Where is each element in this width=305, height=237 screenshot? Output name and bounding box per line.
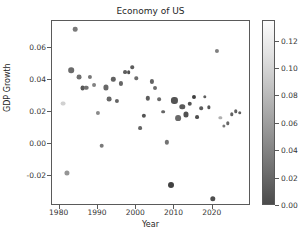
scatter-point xyxy=(161,110,165,114)
scatter-point xyxy=(138,126,142,130)
scatter-point xyxy=(68,67,74,73)
scatter-point xyxy=(142,114,146,118)
x-tick-label: 2020 xyxy=(202,208,221,217)
colorbar-tick-label: 0.02 xyxy=(281,173,298,182)
x-tick-label: 2010 xyxy=(164,208,183,217)
scatter-point xyxy=(219,116,222,119)
scatter-point xyxy=(226,122,229,125)
scatter-point xyxy=(195,115,199,119)
colorbar-tick-mark xyxy=(275,95,279,96)
scatter-point xyxy=(127,70,131,74)
x-tick-label: 1980 xyxy=(49,208,68,217)
y-tick-label: 0.04 xyxy=(29,74,46,83)
scatter-point xyxy=(165,140,169,144)
scatter-point xyxy=(107,97,112,102)
colorbar-tick-label: 0.08 xyxy=(281,91,298,100)
scatter-point xyxy=(115,99,119,103)
scatter-point xyxy=(73,27,78,32)
scatter-point xyxy=(88,75,92,79)
chart-title: Economy of US xyxy=(51,5,250,17)
scatter-point xyxy=(175,116,181,122)
scatter-point xyxy=(203,95,206,98)
colorbar-tick-label: 0.00 xyxy=(281,201,298,210)
scatter-point xyxy=(199,106,203,110)
colorbar-tick-label: 0.12 xyxy=(281,36,298,45)
x-axis-label: Year xyxy=(51,220,250,229)
scatter-point xyxy=(207,106,210,109)
colorbar-tick-mark xyxy=(275,178,279,179)
colorbar xyxy=(262,20,275,205)
scatter-point xyxy=(230,113,233,116)
scatter-point xyxy=(145,96,149,100)
scatter-point xyxy=(65,170,70,175)
colorbar-tick-label: 0.10 xyxy=(281,63,298,72)
colorbar-tick-mark xyxy=(275,41,279,42)
scatter-point xyxy=(179,104,184,109)
x-tick-label: 1990 xyxy=(87,208,106,217)
scatter-point xyxy=(188,101,192,105)
scatter-chart-figure: Economy of US GDP Growth Year 0.060.040.… xyxy=(0,0,305,237)
scatter-point xyxy=(103,85,108,90)
scatter-point xyxy=(111,77,115,81)
scatter-point xyxy=(96,111,100,115)
x-tick-label: 2000 xyxy=(126,208,145,217)
y-tick-label: 0.06 xyxy=(29,42,46,51)
scatter-point xyxy=(76,75,81,80)
colorbar-tick-mark xyxy=(275,205,279,206)
scatter-point xyxy=(183,112,188,117)
plot-area xyxy=(51,20,250,205)
colorbar-tick-mark xyxy=(275,150,279,151)
scatter-point xyxy=(210,196,215,201)
colorbar-tick-mark xyxy=(275,68,279,69)
colorbar-tick-mark xyxy=(275,123,279,124)
scatter-point xyxy=(192,95,196,99)
scatter-point xyxy=(134,77,137,80)
y-axis-label: GDP Growth xyxy=(3,63,12,112)
scatter-point xyxy=(61,101,66,106)
y-tick-label: 0.00 xyxy=(29,139,46,148)
scatter-point xyxy=(157,97,161,101)
scatter-point xyxy=(223,124,226,127)
scatter-point xyxy=(149,79,153,83)
scatter-point xyxy=(168,182,174,188)
scatter-point xyxy=(153,86,157,90)
scatter-point xyxy=(84,85,89,90)
scatter-point xyxy=(171,97,177,103)
scatter-point xyxy=(99,144,104,149)
scatter-point xyxy=(92,83,96,87)
scatter-point xyxy=(214,49,218,53)
y-tick-label: -0.02 xyxy=(27,171,46,180)
y-tick-label: 0.02 xyxy=(29,106,46,115)
scatter-point xyxy=(238,111,242,115)
colorbar-tick-label: 0.06 xyxy=(281,118,298,127)
scatter-point xyxy=(119,81,123,85)
colorbar-tick-label: 0.04 xyxy=(281,146,298,155)
scatter-point xyxy=(131,65,135,69)
